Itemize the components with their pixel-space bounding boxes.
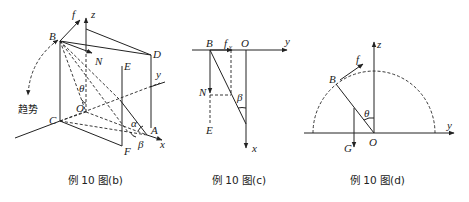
label-O: O	[76, 102, 84, 114]
label-E: E	[205, 124, 213, 136]
label-x: x	[159, 138, 165, 150]
label-y: y	[446, 119, 452, 131]
B-bottom-dashed	[60, 41, 128, 132]
label-B: B	[329, 73, 336, 85]
B-to-x-line	[210, 50, 246, 124]
label-theta: θ	[364, 107, 370, 119]
label-f: f	[72, 8, 77, 20]
label-z: z	[90, 8, 96, 20]
label-trend: 趋势	[18, 103, 38, 115]
label-E: E	[123, 60, 131, 72]
f-arrow	[60, 20, 80, 41]
label-N: N	[198, 86, 207, 98]
label-beta: β	[236, 91, 243, 103]
label-G: G	[344, 142, 352, 154]
label-f: f	[356, 53, 361, 65]
label-B: B	[206, 37, 213, 49]
caption-c: 例 10 图(c)	[212, 172, 266, 187]
label-x: x	[251, 142, 257, 154]
label-A: A	[150, 124, 158, 136]
caption-d: 例 10 图(d)	[350, 172, 405, 187]
label-z: z	[376, 38, 382, 50]
figure-c: B f y O y N β E x	[192, 35, 290, 154]
trend-arc	[28, 40, 58, 95]
label-O: O	[241, 37, 249, 49]
label-beta: β	[137, 138, 144, 150]
y-axis-dashed	[60, 83, 160, 121]
label-C: C	[49, 114, 57, 126]
label-theta: θ	[79, 82, 85, 94]
label-F: F	[123, 145, 131, 157]
edge-BD	[60, 41, 151, 55]
label-N: N	[94, 55, 103, 67]
edge-CF	[60, 121, 122, 146]
edge-top-D	[86, 29, 151, 55]
label-y: y	[155, 68, 161, 80]
caption-b: 例 10 图(b)	[68, 172, 123, 187]
edge-BA-dashed	[60, 41, 120, 100]
f-arrow	[340, 64, 363, 80]
figure-b: f z B N E D y θ O 趋势 C α A x F β	[15, 8, 165, 157]
label-y: y	[284, 35, 290, 47]
label-D: D	[152, 48, 161, 60]
label-alpha: α	[131, 117, 137, 129]
label-B: B	[49, 30, 56, 42]
figure-d: z f B θ y G O	[304, 38, 454, 154]
beta-arc	[238, 108, 246, 109]
y-axis-solid	[150, 82, 165, 87]
label-O: O	[369, 136, 377, 148]
